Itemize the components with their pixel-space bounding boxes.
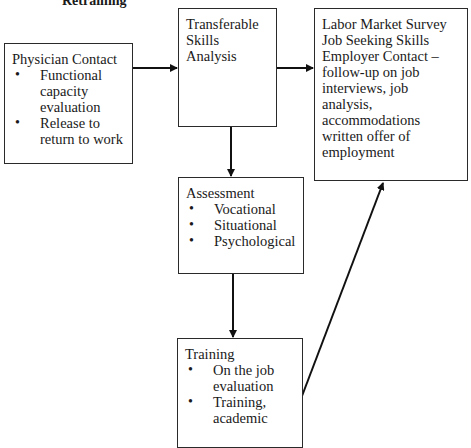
assessment-item: Situational (186, 217, 297, 233)
labor-line: Employer Contact – (322, 48, 461, 64)
labor-line: written offer of (322, 128, 461, 144)
assessment-item: Psychological (186, 233, 297, 249)
labor-line: employment (322, 144, 461, 160)
labor-line: Labor Market Survey (322, 16, 461, 32)
assessment-box: Assessment Vocational Situational Psycho… (178, 177, 304, 274)
labor-line: accommodations (322, 112, 461, 128)
transferable-line: Skills (186, 32, 270, 48)
physician-contact-heading: Physician Contact (12, 51, 126, 67)
labor-line: follow-up on job (322, 64, 461, 80)
labor-line: interviews, job (322, 80, 461, 96)
training-box: Training On the job evaluation Training,… (177, 338, 303, 448)
training-item: Training, academic (185, 394, 296, 426)
arrow-training-to-labor (302, 183, 383, 396)
transferable-line: Transferable (186, 16, 270, 32)
assessment-item: Vocational (186, 201, 297, 217)
physician-contact-box: Physician Contact Functional capacity ev… (4, 43, 133, 164)
training-item: On the job evaluation (185, 362, 296, 394)
physician-item: Functional capacity evaluation (12, 67, 126, 115)
labor-line: analysis, (322, 96, 461, 112)
training-heading: Training (185, 346, 296, 362)
transferable-skills-box: Transferable Skills Analysis (178, 8, 277, 127)
labor-market-box: Labor Market Survey Job Seeking Skills E… (314, 8, 468, 181)
transferable-line: Analysis (186, 48, 270, 64)
assessment-heading: Assessment (186, 185, 297, 201)
physician-item: Release to return to work (12, 115, 126, 147)
labor-line: Job Seeking Skills (322, 32, 461, 48)
